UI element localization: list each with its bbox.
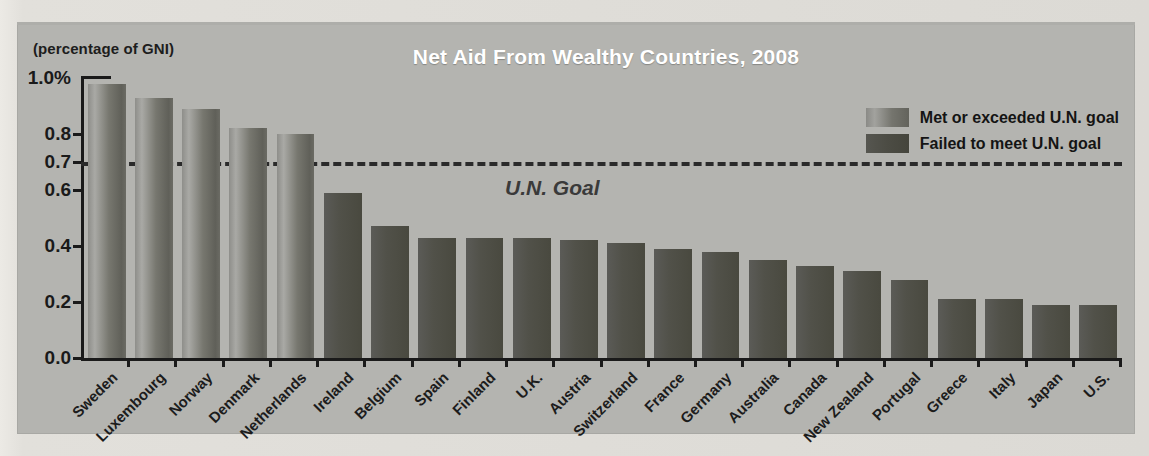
bar-austria[interactable] [560,240,598,358]
plot-area: 1.0%0.80.70.60.40.20.0 U.N. Goal SwedenL… [81,78,1120,358]
bar-japan[interactable] [1032,305,1070,358]
bar-denmark[interactable] [229,128,267,358]
chart-title: Net Aid From Wealthy Countries, 2008 [17,45,1135,69]
bar-fill [229,128,267,358]
y-tick-label: 0.8 [45,123,71,145]
y-tick-label: 0.7 [45,151,71,173]
y-tick-label: 1.0% [28,67,71,89]
bar-fill [1032,305,1070,358]
bar-fill [277,134,315,358]
bar-luxembourg[interactable] [135,98,173,358]
bar-fill [88,84,126,358]
bar-finland[interactable] [466,238,504,358]
y-tick-label: 0.0 [45,347,71,369]
chart-panel: (percentage of GNI) Net Aid From Wealthy… [17,22,1135,434]
bar-fill [466,238,504,358]
bar-fill [560,240,598,358]
bar-sweden[interactable] [88,84,126,358]
bar-series [81,78,1120,358]
y-tick-label: 0.4 [45,235,71,257]
bar-netherlands[interactable] [277,134,315,358]
bar-fill [135,98,173,358]
y-tick-label: 0.2 [45,291,71,313]
y-tick-label: 0.6 [45,179,71,201]
chart-figure: (percentage of GNI) Net Aid From Wealthy… [0,0,1149,456]
